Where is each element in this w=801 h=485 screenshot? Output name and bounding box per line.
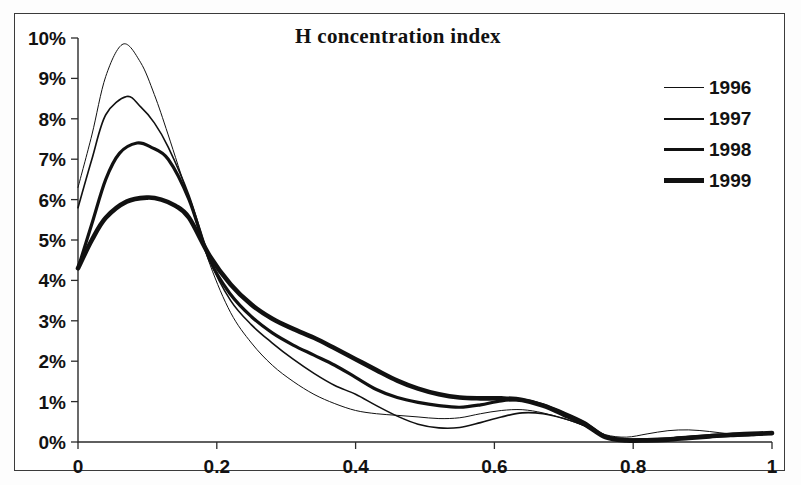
legend-swatch-1999 — [664, 178, 704, 183]
legend-item-1998: 1998 — [664, 134, 776, 165]
chart-legend: 1996 1997 1998 1999 — [664, 72, 776, 196]
svg-text:1%: 1% — [39, 392, 67, 413]
svg-text:6%: 6% — [39, 190, 67, 211]
svg-text:3%: 3% — [39, 311, 67, 332]
legend-item-1997: 1997 — [664, 103, 776, 134]
legend-label-1998: 1998 — [709, 140, 751, 159]
legend-label-1996: 1996 — [709, 78, 751, 97]
svg-text:0: 0 — [73, 456, 84, 477]
legend-swatch-1997 — [664, 118, 704, 120]
legend-item-1996: 1996 — [664, 72, 776, 103]
svg-text:0.6: 0.6 — [481, 456, 507, 477]
svg-text:2%: 2% — [39, 351, 67, 372]
svg-text:1: 1 — [767, 456, 778, 477]
svg-text:7%: 7% — [39, 149, 67, 170]
svg-text:0.4: 0.4 — [342, 456, 369, 477]
legend-swatch-1998 — [664, 148, 704, 151]
chart-figure: 0%1%2%3%4%5%6%7%8%9%10%00.20.40.60.81 H … — [0, 0, 801, 485]
chart-title: H concentration index — [248, 24, 548, 49]
svg-text:10%: 10% — [28, 28, 66, 49]
svg-text:8%: 8% — [39, 109, 67, 130]
legend-item-1999: 1999 — [664, 165, 776, 196]
legend-swatch-1996 — [664, 87, 704, 88]
svg-text:0.2: 0.2 — [204, 456, 230, 477]
svg-text:0.8: 0.8 — [620, 456, 646, 477]
legend-label-1999: 1999 — [709, 171, 751, 190]
legend-label-1997: 1997 — [709, 109, 751, 128]
svg-text:0%: 0% — [39, 432, 67, 453]
svg-text:4%: 4% — [39, 270, 67, 291]
svg-text:9%: 9% — [39, 68, 67, 89]
svg-text:5%: 5% — [39, 230, 67, 251]
